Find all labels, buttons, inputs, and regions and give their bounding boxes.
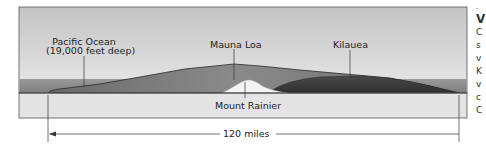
volcano-cross-section-diagram: Pacific Ocean (19,000 feet deep) Mauna L… bbox=[0, 0, 486, 148]
kilauea-label: Kilauea bbox=[333, 40, 368, 50]
scale-arrow-icon bbox=[49, 132, 56, 137]
ocean-depth-label: (19,000 feet deep) bbox=[46, 46, 135, 56]
cropped-side-text: - V C s v K v c C bbox=[476, 4, 485, 117]
mauna-loa-label: Mauna Loa bbox=[210, 40, 262, 50]
mount-rainier-label: Mount Rainier bbox=[215, 101, 281, 111]
scale-label: 120 miles bbox=[223, 129, 269, 139]
diagram-graphic bbox=[0, 0, 486, 148]
